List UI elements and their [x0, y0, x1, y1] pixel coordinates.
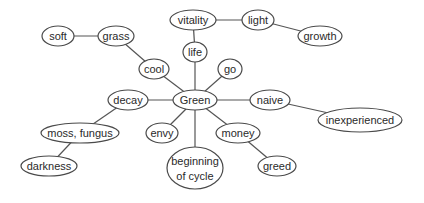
node-naive: naive [250, 90, 290, 110]
node-light: light [242, 10, 274, 30]
node-label: growth [303, 30, 336, 42]
node-ellipse [167, 147, 223, 189]
node-envy: envy [146, 123, 178, 143]
node-label: vitality [178, 14, 209, 26]
node-label: life [188, 46, 202, 58]
node-cool: cool [139, 59, 169, 79]
node-growth: growth [298, 26, 342, 46]
node-life: life [183, 42, 207, 62]
node-label: envy [150, 127, 174, 139]
node-moss-fungus: moss, fungus [41, 123, 119, 143]
nodes-layer: softgrasscoolvitalitylightgrowthlifegoGr… [21, 10, 402, 189]
node-darkness: darkness [21, 156, 77, 176]
node-beginning-of-cycle: beginningof cycle [167, 147, 223, 189]
node-label: of cycle [176, 170, 213, 182]
node-label: darkness [27, 160, 72, 172]
node-label: grass [103, 30, 130, 42]
concept-map: softgrasscoolvitalitylightgrowthlifegoGr… [0, 0, 424, 203]
node-label: Green [180, 94, 211, 106]
node-label: greed [263, 160, 291, 172]
node-label: go [224, 63, 236, 75]
node-label: soft [49, 30, 67, 42]
node-label: money [221, 127, 255, 139]
node-greed: greed [258, 156, 296, 176]
node-soft: soft [42, 26, 74, 46]
node-label: moss, fungus [47, 127, 113, 139]
node-grass: grass [98, 26, 134, 46]
node-vitality: vitality [170, 10, 216, 30]
node-green: Green [173, 90, 217, 110]
node-label: beginning [171, 155, 219, 167]
node-decay: decay [108, 90, 148, 110]
node-label: inexperienced [326, 114, 395, 126]
node-go: go [218, 59, 242, 79]
node-label: naive [257, 94, 283, 106]
node-label: cool [144, 63, 164, 75]
node-inexperienced: inexperienced [318, 108, 402, 132]
node-label: light [248, 14, 268, 26]
node-label: decay [113, 94, 143, 106]
node-money: money [216, 123, 260, 143]
